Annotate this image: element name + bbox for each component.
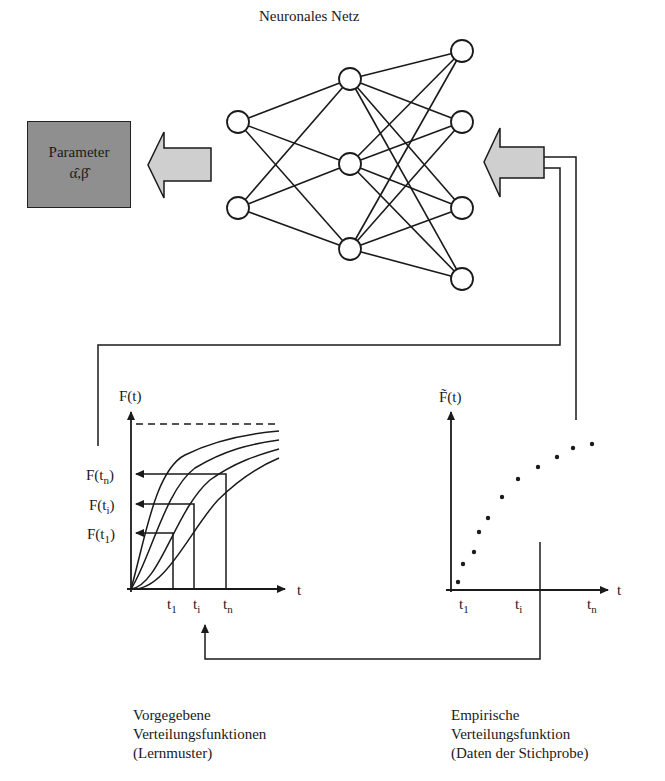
left-caption: Vorgegebene Verteilungsfunktionen (Lernm… <box>133 706 266 763</box>
left-caption-line: Vorgegebene <box>133 706 266 725</box>
input-arrow-icon <box>484 128 544 197</box>
right-caption-line: (Daten der Stichprobe) <box>451 744 588 763</box>
right-chart <box>446 412 608 592</box>
output-node <box>451 268 473 290</box>
right-y-axis-label: F̃(t) <box>439 388 462 406</box>
right-x-axis-label: t <box>617 581 621 599</box>
x-tick-t1: t1 <box>167 595 177 618</box>
hidden-node <box>339 153 361 175</box>
left-caption-line: Verteilungsfunktionen <box>133 725 266 744</box>
right-x-tick-tn: tn <box>587 595 597 618</box>
left-chart <box>127 412 285 592</box>
connector-lines <box>98 157 576 659</box>
y-tick-F-t1: F(t1) <box>87 525 115 548</box>
parameter-box: Parameter α̂,β̂ <box>27 121 131 208</box>
right-caption: Empirische Verteilungsfunktion (Daten de… <box>451 706 588 763</box>
output-arrow-icon <box>148 132 211 198</box>
right-caption-line: Empirische <box>451 706 588 725</box>
input-node <box>227 111 249 133</box>
right-x-tick-ti: ti <box>515 595 522 618</box>
right-caption-line: Verteilungsfunktion <box>451 725 588 744</box>
output-node <box>451 197 473 219</box>
y-tick-F-tn: F(tn) <box>86 466 114 489</box>
output-node <box>451 111 473 133</box>
x-tick-tn: tn <box>223 595 233 618</box>
right-x-tick-t1: t1 <box>459 595 469 618</box>
input-node <box>227 197 249 219</box>
hidden-node <box>339 238 361 260</box>
hidden-node <box>339 68 361 90</box>
parameter-label: Parameter <box>28 142 130 163</box>
diagram-canvas <box>0 0 665 781</box>
output-node <box>451 40 473 62</box>
left-y-axis-label: F(t) <box>119 387 142 405</box>
empirical-points <box>456 442 594 584</box>
x-tick-ti: ti <box>193 595 200 618</box>
left-x-axis-label: t <box>297 581 301 599</box>
network-title: Neuronales Netz <box>259 7 359 25</box>
y-tick-F-ti: F(ti) <box>89 496 115 519</box>
left-caption-line: (Lernmuster) <box>133 744 266 763</box>
parameter-symbols: α̂,β̂ <box>28 163 130 184</box>
